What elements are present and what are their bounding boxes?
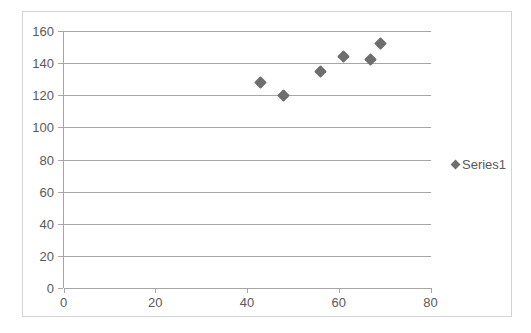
x-axis-tick-40 bbox=[247, 288, 248, 293]
y-axis-label-60: 60 bbox=[20, 186, 54, 199]
x-axis-label-40: 40 bbox=[227, 296, 267, 309]
x-axis-label-0: 0 bbox=[44, 296, 84, 309]
x-axis-tick-20 bbox=[155, 288, 156, 293]
y-axis-tick-80 bbox=[58, 160, 63, 161]
gridline-y-80 bbox=[64, 160, 431, 161]
value-axis-line bbox=[63, 31, 64, 288]
x-axis-label-20: 20 bbox=[135, 296, 175, 309]
legend: Series1 bbox=[452, 158, 506, 171]
x-axis-label-60: 60 bbox=[319, 296, 359, 309]
diamond-marker-icon bbox=[451, 160, 461, 170]
y-axis-label-0: 0 bbox=[20, 282, 54, 295]
y-axis-label-160: 160 bbox=[20, 25, 54, 38]
y-axis-tick-120 bbox=[58, 95, 63, 96]
gridline-y-140 bbox=[64, 63, 431, 64]
y-axis-tick-0 bbox=[58, 288, 63, 289]
gridline-y-60 bbox=[64, 192, 431, 193]
y-axis-label-120: 120 bbox=[20, 89, 54, 102]
gridline-y-40 bbox=[64, 224, 431, 225]
y-axis-labels: 020406080100120140160 bbox=[20, 0, 54, 333]
gridline-y-160 bbox=[64, 31, 431, 32]
x-axis-tick-80 bbox=[431, 288, 432, 293]
y-axis-tick-160 bbox=[58, 31, 63, 32]
gridline-y-20 bbox=[64, 256, 431, 257]
gridline-y-100 bbox=[64, 127, 431, 128]
x-axis-tick-0 bbox=[64, 288, 65, 293]
y-axis-label-140: 140 bbox=[20, 57, 54, 70]
x-axis-label-80: 80 bbox=[411, 296, 451, 309]
plot-area bbox=[64, 31, 431, 288]
y-axis-label-20: 20 bbox=[20, 250, 54, 263]
y-axis-tick-20 bbox=[58, 256, 63, 257]
x-axis-tick-60 bbox=[339, 288, 340, 293]
y-axis-tick-40 bbox=[58, 224, 63, 225]
gridline-y-120 bbox=[64, 95, 431, 96]
y-axis-tick-140 bbox=[58, 63, 63, 64]
legend-label-series1: Series1 bbox=[462, 158, 506, 171]
scatter-chart: 020406080100120140160 Series1 020406080 bbox=[0, 0, 531, 333]
y-axis-label-80: 80 bbox=[20, 154, 54, 167]
y-axis-label-40: 40 bbox=[20, 218, 54, 231]
y-axis-tick-100 bbox=[58, 127, 63, 128]
y-axis-label-100: 100 bbox=[20, 121, 54, 134]
y-axis-tick-60 bbox=[58, 192, 63, 193]
